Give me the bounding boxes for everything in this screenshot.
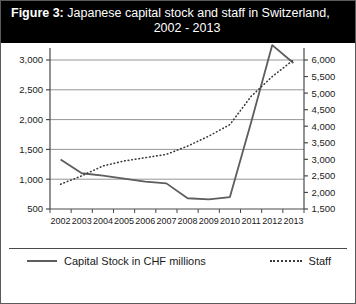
legend-item-capital-stock: Capital Stock in CHF millions [27, 255, 206, 267]
right-axis-tick-label: 6,000 [312, 54, 336, 65]
x-axis-tick-label: 2010 [220, 216, 240, 226]
left-axis-tick-label: 2,500 [19, 84, 43, 95]
chart-legend: Capital Stock in CHF millions Staff [1, 249, 355, 271]
right-axis-tick-label: 4,000 [312, 121, 336, 132]
right-axis-tick-label: 2,500 [312, 170, 336, 181]
figure-title-bar: Figure 3: Japanese capital stock and sta… [1, 1, 355, 43]
left-axis-tick-label: 1,500 [19, 144, 43, 155]
legend-item-staff: Staff [270, 255, 345, 267]
left-axis-tick-label: 3,000 [19, 54, 43, 65]
series-line-capital-stock [61, 45, 294, 199]
right-axis-tick-label: 5,500 [312, 71, 336, 82]
x-axis-tick-label: 2006 [135, 216, 155, 226]
left-axis-tick-label: 1,000 [19, 174, 43, 185]
left-axis-tick-label: 500 [27, 203, 43, 214]
x-axis-tick-label: 2012 [262, 216, 282, 226]
figure-title-line-2: 2002 - 2013 [11, 21, 345, 36]
x-axis-tick-label: 2002 [51, 216, 71, 226]
x-axis-tick-label: 2009 [199, 216, 219, 226]
x-axis-tick-label: 2004 [93, 216, 113, 226]
x-axis-tick-label: 2011 [241, 216, 260, 226]
right-axis-tick-label: 1,500 [312, 203, 336, 214]
x-axis-tick-label: 2005 [114, 216, 134, 226]
legend-swatch-solid-line-icon [27, 260, 57, 262]
legend-label-staff: Staff [309, 255, 331, 267]
x-axis-tick-label: 2007 [156, 216, 176, 226]
figure-container: Figure 3: Japanese capital stock and sta… [0, 0, 356, 304]
right-axis-tick-label: 3,500 [312, 137, 336, 148]
legend-label-capital-stock: Capital Stock in CHF millions [64, 255, 206, 267]
figure-number-label: Figure 3: [11, 6, 64, 20]
left-axis-tick-label: 2,000 [19, 114, 43, 125]
legend-swatch-dotted-line-icon [270, 260, 302, 262]
right-axis-tick-label: 3,000 [312, 154, 336, 165]
right-axis-tick-label: 2,000 [312, 187, 336, 198]
chart-svg: 5001,0001,5002,0002,5003,0001,5002,0002,… [1, 43, 356, 248]
right-axis-tick-label: 4,500 [312, 104, 336, 115]
x-axis-tick-label: 2003 [72, 216, 92, 226]
x-axis-tick-label: 2013 [283, 216, 303, 226]
series-line-staff [61, 60, 294, 184]
plot-area: 5001,0001,5002,0002,5003,0001,5002,0002,… [1, 43, 356, 248]
x-axis-tick-label: 2008 [178, 216, 198, 226]
figure-title-line-1: Figure 3: Japanese capital stock and sta… [11, 6, 345, 21]
figure-title-text: Japanese capital stock and staff in Swit… [64, 6, 330, 20]
right-axis-tick-label: 5,000 [312, 88, 336, 99]
